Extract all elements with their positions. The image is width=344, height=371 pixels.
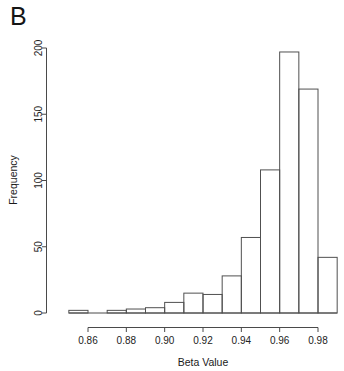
x-axis-title: Beta Value [178,356,229,368]
x-axis-tick-label: 0.98 [308,335,328,346]
x-axis: 0.860.880.900.920.940.960.98 [78,328,328,346]
figure-panel-b: B 050100150200 0.860.880.900.920.940.960… [0,0,344,371]
y-axis-tick-label: 200 [33,39,44,56]
x-axis-tick-label: 0.88 [117,335,137,346]
x-axis-tick-label: 0.86 [78,335,98,346]
bar-group [69,52,337,313]
histogram-bar [222,276,241,313]
x-axis-tick-label: 0.92 [193,335,213,346]
histogram-bar [318,257,337,313]
x-axis-tick-label: 0.90 [155,335,175,346]
y-axis-tick-label: 100 [33,172,44,189]
histogram-bar [69,310,88,313]
histogram-bar [299,89,318,313]
histogram-bar [280,52,299,313]
histogram-bar [203,294,222,313]
x-axis-tick-label: 0.94 [232,335,252,346]
y-axis: 050100150200 [33,39,47,316]
histogram-bar [146,308,165,313]
y-axis-tick-label: 150 [33,105,44,122]
histogram-bar [261,170,280,313]
histogram-bar [165,302,184,313]
x-axis-tick-label: 0.96 [270,335,290,346]
histogram-bar [241,237,260,313]
histogram-bar [126,309,145,313]
y-axis-title: Frequency [7,154,19,204]
histogram-bar [107,310,126,313]
histogram-bar [184,293,203,313]
y-axis-tick-label: 50 [33,241,44,253]
histogram-plot: 050100150200 0.860.880.900.920.940.960.9… [0,0,344,371]
y-axis-tick-label: 0 [33,310,44,316]
